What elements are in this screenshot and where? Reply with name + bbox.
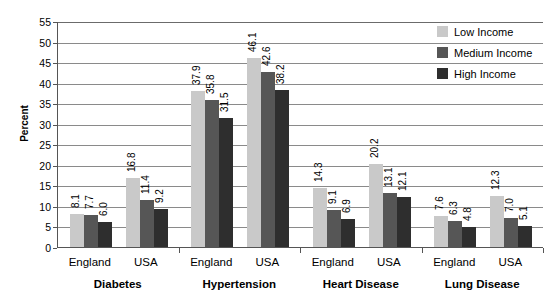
bar-value-label: 13.1 xyxy=(384,168,394,187)
x-country-label: USA xyxy=(498,256,522,268)
y-tick-mark xyxy=(53,207,57,208)
x-group-label: Diabetes xyxy=(94,278,142,290)
bar: 6.9 xyxy=(341,219,355,247)
bar-value-label: 9.2 xyxy=(155,189,165,203)
x-group-label: Lung Disease xyxy=(445,278,520,290)
bar: 5.1 xyxy=(518,226,532,247)
x-country-label: England xyxy=(190,256,232,268)
bar: 20.2 xyxy=(369,164,383,247)
bar: 9.2 xyxy=(154,209,168,247)
bar: 6.0 xyxy=(98,222,112,247)
bar-value-label: 20.2 xyxy=(370,139,380,158)
bar: 11.4 xyxy=(140,200,154,247)
bar-value-label: 12.1 xyxy=(398,172,408,191)
bar-value-label: 8.1 xyxy=(71,194,81,208)
bar-value-label: 11.4 xyxy=(141,175,151,194)
bar-value-label: 31.5 xyxy=(220,92,230,111)
y-tick-label: 20 xyxy=(20,161,51,172)
bar: 37.9 xyxy=(191,91,205,247)
bar: 7.7 xyxy=(84,215,98,247)
y-tick-label: 25 xyxy=(20,140,51,151)
bar: 12.1 xyxy=(397,197,411,247)
bar: 9.1 xyxy=(327,210,341,247)
bar-value-label: 16.8 xyxy=(127,153,137,172)
bar: 38.2 xyxy=(275,90,289,247)
x-tick-mark xyxy=(300,248,301,253)
bar-value-label: 7.7 xyxy=(85,195,95,209)
y-tick-mark xyxy=(53,104,57,105)
bar-value-label: 7.6 xyxy=(435,196,445,210)
y-tick-label: 45 xyxy=(20,58,51,69)
bar-value-label: 9.1 xyxy=(328,190,338,204)
x-tick-mark xyxy=(543,248,544,253)
bar-value-label: 7.0 xyxy=(505,198,515,212)
x-country-label: England xyxy=(312,256,354,268)
legend-label: Medium Income xyxy=(454,47,532,59)
y-tick-mark xyxy=(53,63,57,64)
x-tick-mark xyxy=(179,248,180,253)
x-country-label: USA xyxy=(134,256,158,268)
bar: 7.0 xyxy=(504,218,518,247)
y-tick-label: 35 xyxy=(20,99,51,110)
y-tick-mark xyxy=(53,166,57,167)
y-tick-mark xyxy=(53,248,57,249)
y-tick-label: 30 xyxy=(20,119,51,130)
y-tick-mark xyxy=(53,145,57,146)
bar: 7.6 xyxy=(434,216,448,247)
bar-value-label: 6.0 xyxy=(99,202,109,216)
bar: 35.8 xyxy=(205,100,219,247)
y-tick-mark xyxy=(53,84,57,85)
x-group-label: Heart Disease xyxy=(323,278,399,290)
bar: 12.3 xyxy=(490,196,504,247)
bar: 46.1 xyxy=(247,58,261,247)
y-tick-label: 10 xyxy=(20,202,51,213)
legend-item: Low Income xyxy=(437,21,543,42)
bar: 42.6 xyxy=(261,72,275,247)
bar-value-label: 5.1 xyxy=(519,206,529,220)
y-tick-label: 0 xyxy=(20,243,51,254)
y-tick-mark xyxy=(53,125,57,126)
legend-swatch-icon xyxy=(437,68,448,79)
grouped-bar-chart: Percent 5550454035302520151050 8.17.76.0… xyxy=(0,0,559,301)
y-tick-label: 40 xyxy=(20,78,51,89)
y-tick-label: 50 xyxy=(20,37,51,48)
bar-value-label: 4.8 xyxy=(463,207,473,221)
y-tick-label: 55 xyxy=(20,17,51,28)
bar-value-label: 6.3 xyxy=(449,201,459,215)
bar: 16.8 xyxy=(126,178,140,247)
legend-item: Medium Income xyxy=(437,42,543,63)
y-tick-label: 15 xyxy=(20,181,51,192)
y-tick-mark xyxy=(53,227,57,228)
gridline xyxy=(58,125,543,126)
legend-label: Low Income xyxy=(454,26,513,38)
legend-label: High Income xyxy=(454,68,516,80)
x-country-label: England xyxy=(433,256,475,268)
bar-value-label: 38.2 xyxy=(276,65,286,84)
x-country-label: USA xyxy=(377,256,401,268)
bar-value-label: 6.9 xyxy=(342,199,352,213)
x-group-label: Hypertension xyxy=(203,278,277,290)
bar-value-label: 46.1 xyxy=(248,32,258,51)
x-country-label: USA xyxy=(255,256,279,268)
chart-legend: Low IncomeMedium IncomeHigh Income xyxy=(437,21,543,84)
bar-value-label: 12.3 xyxy=(491,171,501,190)
bar: 8.1 xyxy=(70,214,84,247)
y-tick-label: 5 xyxy=(20,222,51,233)
bar-value-label: 42.6 xyxy=(262,46,272,65)
bar: 31.5 xyxy=(219,118,233,247)
y-axis-tick-labels: 5550454035302520151050 xyxy=(20,22,51,248)
y-tick-mark xyxy=(53,22,57,23)
legend-swatch-icon xyxy=(437,26,448,37)
bar-value-label: 14.3 xyxy=(314,163,324,182)
bar-value-label: 35.8 xyxy=(206,74,216,93)
y-tick-mark xyxy=(53,43,57,44)
x-country-label: England xyxy=(69,256,111,268)
bar: 4.8 xyxy=(462,227,476,247)
x-tick-mark xyxy=(422,248,423,253)
y-tick-mark xyxy=(53,186,57,187)
gridline xyxy=(58,104,543,105)
gridline xyxy=(58,145,543,146)
legend-item: High Income xyxy=(437,63,543,84)
bar-value-label: 37.9 xyxy=(192,66,202,85)
bar: 6.3 xyxy=(448,221,462,247)
